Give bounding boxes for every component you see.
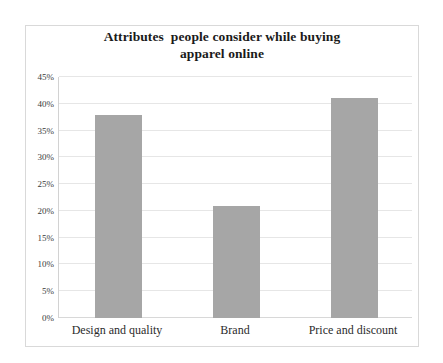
x-axis-category-labels: Design and qualityBrandPrice and discoun… — [58, 322, 412, 344]
x-axis-category-label: Brand — [176, 322, 294, 338]
y-axis-tick-label: 35% — [14, 126, 54, 136]
chart-title-line-2: apparel online — [180, 46, 264, 61]
x-axis-category-label: Price and discount — [294, 322, 412, 338]
y-axis-tick-label: 15% — [14, 233, 54, 243]
plot-area — [58, 77, 412, 318]
y-axis-tick-label: 45% — [14, 72, 54, 82]
y-axis-tick-label: 40% — [14, 99, 54, 109]
y-axis-tick-label: 5% — [14, 286, 54, 296]
bar — [331, 98, 378, 318]
y-axis-tick-label: 20% — [14, 206, 54, 216]
y-axis-tick-labels: 0%5%10%15%20%25%30%35%40%45% — [10, 77, 54, 318]
chart-title-line-1: Attributes people consider while buying — [104, 29, 341, 44]
y-axis-tick-label: 10% — [14, 259, 54, 269]
y-axis-tick-label: 30% — [14, 152, 54, 162]
chart-figure: Attributes people consider while buyinga… — [0, 0, 443, 363]
y-axis-tick-label: 0% — [14, 313, 54, 323]
x-axis-category-label: Design and quality — [58, 322, 176, 338]
chart-title: Attributes people consider while buyinga… — [30, 28, 414, 62]
bar — [213, 206, 260, 318]
bar — [95, 115, 142, 319]
y-axis-tick-label: 25% — [14, 179, 54, 189]
gridline — [59, 76, 412, 77]
